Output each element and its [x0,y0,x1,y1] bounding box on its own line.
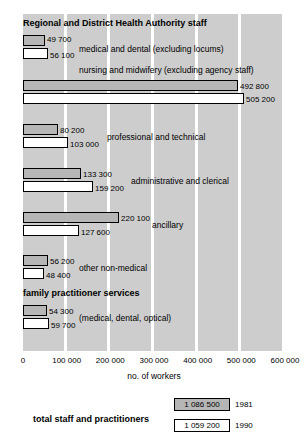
group-heading-rdha: Regional and District Health Authority s… [23,18,207,29]
bar-value-nursing-and-midwifery-1981: 492 800 [240,82,269,91]
bar-value-other-non-medical-1981: 56 200 [50,257,74,266]
bar-ancillary-1990[interactable] [23,225,79,236]
total-year-1990: 1990 [235,419,253,432]
bar-value-medical-and-dental-1990: 56 100 [50,51,74,60]
bar-value-professional-and-technical-1990: 103 000 [70,140,99,149]
bar-medical-and-dental-1990[interactable] [23,48,48,59]
x-axis-tick-label: 500 000 [227,356,256,365]
bar-nursing-and-midwifery-1981[interactable] [23,80,238,91]
category-label-medical-and-dental: medical and dental (excluding locums) [79,44,224,54]
x-axis-tick-label: 0 [21,356,25,365]
group-heading-family-practitioner-services: family practitioner services [23,288,140,299]
category-label-other-non-medical: other non-medical [79,263,147,273]
bar-ancillary-1981[interactable] [23,212,119,223]
category-label-nursing-and-midwifery: nursing and midwifery (excluding agency … [79,65,254,75]
total-year-1981: 1981 [235,398,253,411]
bar-medical-and-dental-1981[interactable] [23,35,45,46]
bar-administrative-and-clerical-1981[interactable] [23,168,81,179]
bar-professional-and-technical-1990[interactable] [23,137,68,148]
bar-value-professional-and-technical-1981: 80 200 [60,126,84,135]
chart-container: Regional and District Health Authority s… [0,0,308,444]
x-axis-title: no. of workers [127,371,180,381]
bar-family-practitioner-1990[interactable] [23,318,49,329]
bar-value-family-practitioner-1981: 54 300 [49,307,73,316]
bar-professional-and-technical-1981[interactable] [23,124,58,135]
category-label-administrative-and-clerical: administrative and clerical [131,176,229,186]
bar-value-ancillary-1990: 127 600 [81,228,110,237]
bar-value-administrative-and-clerical-1990: 159 200 [95,184,124,193]
total-value-1990: 1 059 200 [174,419,230,432]
bar-value-nursing-and-midwifery-1990: 505 200 [246,95,275,104]
x-axis-tick-label: 400 000 [183,356,212,365]
category-label-family-practitioner: (medical, dental, optical) [79,313,171,323]
bar-other-non-medical-1990[interactable] [23,268,44,279]
bar-family-practitioner-1981[interactable] [23,305,47,316]
category-label-ancillary: ancillary [152,220,183,230]
bar-administrative-and-clerical-1990[interactable] [23,181,93,192]
bar-other-non-medical-1981[interactable] [23,255,48,266]
total-value-1981: 1 086 500 [174,398,230,411]
bar-value-ancillary-1981: 220 100 [121,214,150,223]
bar-nursing-and-midwifery-1990[interactable] [23,93,244,104]
category-label-professional-and-technical: professional and technical [107,132,205,142]
x-axis-tick-label: 300 000 [140,356,169,365]
bar-value-medical-and-dental-1981: 49 700 [47,35,71,44]
bar-value-administrative-and-clerical-1981: 133 300 [83,170,112,179]
x-axis-tick-label: 200 000 [96,356,125,365]
x-axis-tick-label: 100 000 [52,356,81,365]
bar-value-other-non-medical-1990: 48 400 [46,271,70,280]
x-axis-tick-label: 600 000 [271,356,300,365]
totals-label: total staff and practitioners [33,414,149,425]
bar-value-family-practitioner-1990: 59 700 [51,321,75,330]
